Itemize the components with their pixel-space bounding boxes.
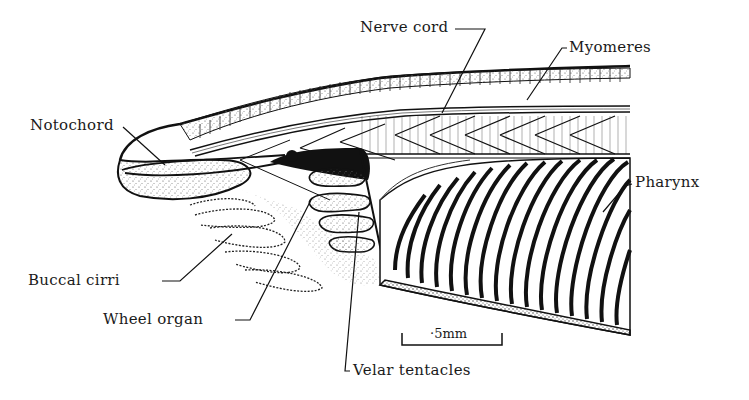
scale-bar-label: ·5mm: [430, 326, 467, 341]
label-notochord: Notochord: [30, 116, 114, 134]
snout: [118, 155, 285, 199]
amphioxus-illustration: [0, 0, 749, 400]
label-myomeres: Myomeres: [569, 38, 651, 56]
diagram-canvas: Nerve cord Myomeres Notochord Pharynx Bu…: [0, 0, 749, 400]
label-velar-tentacles: Velar tentacles: [353, 361, 471, 379]
pharynx: [380, 158, 630, 335]
label-buccal-cirri: Buccal cirri: [28, 271, 120, 289]
label-wheel-organ: Wheel organ: [103, 310, 203, 328]
label-pharynx: Pharynx: [635, 173, 700, 191]
label-nerve-cord: Nerve cord: [360, 18, 449, 36]
